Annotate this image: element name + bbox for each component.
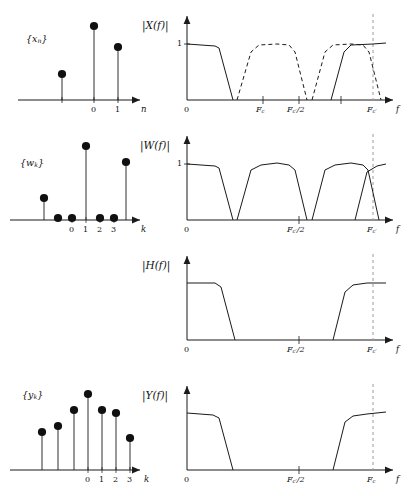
yabs-close: | [165,389,169,401]
ktick-2-w: 2 [97,226,102,234]
ktick-3-w: 3 [111,226,116,234]
stem-plot-yk: {yk} 0 1 2 3 k [0,368,155,496]
xtick-1: 1 [115,106,120,114]
row-h: |H(f)| 0 Fc′/2 Fc′ f [0,240,420,360]
row-x: {xn} 0 1 n |X(f)| [0,0,420,120]
seq-close: } [41,33,47,44]
row-w: {wk} 0 1 2 3 k |W(f)| [0,120,420,240]
ytick-one-wf: 1 [177,160,182,168]
yfc-sub: c [373,478,376,484]
sequence-label-wk: {wk} [20,158,44,169]
axis-label-f-xf: f [396,105,399,114]
axis-label-n: n [141,105,146,114]
yfcp-half: /2 [297,475,305,484]
spectrum-plot-xf: |X(f)| 1 0 Fc Fc′/2 Fc′ [155,0,420,120]
ftick-fcp-hf: Fc′ [367,346,377,354]
ftick-zero-yf: 0 [184,476,189,484]
spectrum-label-hf: |H(f)| [142,260,170,271]
ftick-fc-xf: Fc [256,106,265,114]
fcp-half: /2 [297,105,305,114]
ftick-fcphalf-wf: Fc′/2 [287,226,305,234]
ktick-1-y: 1 [99,476,104,484]
row-y: {yk} 0 1 2 3 k [0,368,420,496]
spectrum-plot-hf: |H(f)| 0 Fc′/2 Fc′ f [155,240,420,360]
fc-sub: c [262,108,265,114]
hfcp-half: /2 [297,345,305,354]
wfcp-half: /2 [297,225,305,234]
ftick-fc-yf: Fc [367,476,376,484]
spectrum-plot-yf: |Y(f)| 0 Fc′/2 Fc f [155,368,420,496]
seq-open: {x [26,33,37,44]
spectrum-svg-wf [155,120,420,240]
spectrum-label-yf: |Y(f)| [142,390,168,401]
spectrum-plot-wf: |W(f)| 1 0 Fc′/2 Fc′ f [155,120,420,240]
ftick-fcphalf-yf: Fc′/2 [287,476,305,484]
ktick-3-y: 3 [127,476,132,484]
yseq-open: {y [22,389,33,400]
ktick-0-w: 0 [69,226,74,234]
sequence-label-yk: {yk} [22,390,43,401]
ftick-zero-wf: 0 [184,226,189,234]
ftick-zero-xf: 0 [184,106,189,114]
spectrum-svg-hf [155,240,420,360]
stem-svg-wk [0,120,155,240]
ftick-zero-hf: 0 [184,346,189,354]
xtick-0: 0 [91,106,96,114]
ftick-fcphalf-hf: Fc′/2 [287,346,305,354]
stem-plot-wk: {wk} 0 1 2 3 k [0,120,155,240]
ftick-fcp-wf: Fc′ [367,226,377,234]
ktick-1-w: 1 [83,226,88,234]
wseq-open: {w [20,157,34,168]
abs-close: | [165,19,169,31]
stem-svg-xn [0,0,155,120]
wf-text: W(f) [144,139,167,151]
ytick-one-xf: 1 [177,40,182,48]
axis-label-f-hf: f [396,345,399,354]
sequence-label-xn: {xn} [26,34,48,45]
wabs-close: | [166,139,170,151]
hf-text: H(f) [146,259,167,271]
xf-text: X(f) [146,19,166,31]
spectrum-label-xf: |X(f)| [142,20,169,31]
wseq-close: } [38,157,44,168]
axis-label-k-w: k [141,225,146,234]
yf-text: Y(f) [146,389,165,401]
axis-label-k-y: k [144,475,149,484]
ktick-2-y: 2 [113,476,118,484]
habs-close: | [167,259,171,271]
stem-plot-xn: {xn} 0 1 n [0,0,155,120]
ftick-fcphalf-xf: Fc′/2 [287,106,305,114]
ktick-0-y: 0 [85,476,90,484]
spectrum-label-wf: |W(f)| [140,140,170,151]
fcpe-sub: c′ [373,108,377,114]
ftick-fcp-xf: Fc′ [367,106,377,114]
hfcpe-sub: c′ [373,348,377,354]
axis-label-f-wf: f [396,225,399,234]
wfcpe-sub: c′ [373,228,377,234]
yseq-close: } [37,389,43,400]
axis-label-f-yf: f [396,475,399,484]
spectrum-svg-xf [155,0,420,120]
